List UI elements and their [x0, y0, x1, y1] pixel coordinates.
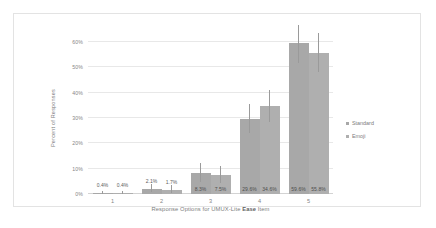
bar-value-label: 55.8% [311, 186, 325, 192]
bar-standard-3[interactable]: 8.3% [191, 42, 211, 194]
x-axis-tick-label: 1 [111, 198, 114, 204]
bar-emoji-3[interactable]: 7.5% [211, 42, 231, 194]
x-axis-tick-label: 5 [307, 198, 310, 204]
bar-group: 2.1%1.7%2 [137, 42, 186, 194]
y-axis-tick-label: 20% [72, 140, 83, 146]
error-bar [122, 191, 123, 194]
legend-item-emoji[interactable]: Emoji [346, 133, 374, 139]
bar-value-label: 59.6% [291, 186, 305, 192]
bar-value-label: 8.3% [195, 186, 207, 192]
legend-item-standard[interactable]: Standard [346, 120, 374, 126]
x-axis-title-before: Response Options for UMUX-Lite [151, 206, 242, 212]
bar-emoji-1[interactable]: 0.4% [113, 42, 133, 194]
legend-swatch-icon [346, 122, 349, 125]
legend-item-label: Emoji [352, 133, 365, 139]
x-axis-title-bold: Ease [242, 206, 256, 212]
legend-swatch-icon [346, 135, 349, 138]
error-bar [318, 33, 319, 72]
bar-standard-1[interactable]: 0.4% [93, 42, 113, 194]
y-axis-tick-label: 30% [72, 115, 83, 121]
legend-item-label: Standard [352, 120, 374, 126]
y-axis-tick-label: 60% [72, 39, 83, 45]
x-axis-title: Response Options for UMUX-Lite Ease Item [88, 206, 333, 212]
figure-container: Percent of Responses 0%10%20%30%40%50%60… [13, 13, 421, 207]
y-axis-tick-label: 0% [75, 191, 83, 197]
bar-group: 29.6%34.6%4 [235, 42, 284, 194]
bar-group: 59.6%55.8%5 [284, 42, 333, 194]
y-axis-tick-label: 10% [72, 166, 83, 172]
error-bar [200, 163, 201, 181]
bar-emoji-2[interactable]: 1.7% [162, 42, 182, 194]
bar-value-label: 0.4% [117, 182, 129, 188]
bar-rect [309, 53, 329, 194]
error-bar [269, 90, 270, 122]
y-axis-tick-label: 40% [72, 90, 83, 96]
bar-value-label: 2.1% [146, 178, 158, 184]
bar-value-label: 7.5% [215, 186, 227, 192]
bar-value-label: 34.6% [262, 186, 276, 192]
x-axis-tick-label: 2 [160, 198, 163, 204]
error-bar [151, 184, 152, 193]
bar-group: 0.4%0.4%1 [88, 42, 137, 194]
bar-emoji-5[interactable]: 55.8% [309, 42, 329, 194]
error-bar [102, 191, 103, 194]
bar-standard-4[interactable]: 29.6% [240, 42, 260, 194]
x-axis-tick-label: 3 [209, 198, 212, 204]
x-axis-tick-label: 4 [258, 198, 261, 204]
bar-value-label: 29.6% [242, 186, 256, 192]
bar-group: 8.3%7.5%3 [186, 42, 235, 194]
bar-standard-5[interactable]: 59.6% [289, 42, 309, 194]
error-bar [298, 25, 299, 63]
y-axis-title-text: Percent of Responses [50, 89, 56, 147]
bar-value-label: 0.4% [97, 182, 109, 188]
y-axis-title: Percent of Responses [48, 42, 58, 194]
legend: StandardEmoji [346, 120, 374, 146]
bar-standard-2[interactable]: 2.1% [142, 42, 162, 194]
x-axis-title-after: Item [256, 206, 269, 212]
bar-value-label: 1.7% [166, 179, 178, 185]
plot-area: 0%10%20%30%40%50%60%0.4%0.4%12.1%1.7%28.… [88, 42, 333, 194]
y-axis-tick-label: 50% [72, 64, 83, 70]
bar-emoji-4[interactable]: 34.6% [260, 42, 280, 194]
error-bar [249, 104, 250, 132]
error-bar [171, 185, 172, 193]
bar-rect [289, 43, 309, 194]
error-bar [220, 166, 221, 184]
